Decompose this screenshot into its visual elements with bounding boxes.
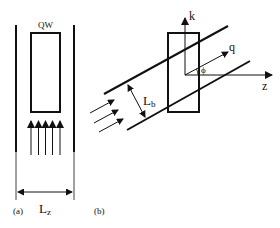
incident-arrows-a — [31, 121, 60, 155]
caption-b: (b) — [94, 206, 105, 216]
lb-label: Lb — [143, 93, 156, 109]
phi-label: ϕ — [201, 65, 206, 75]
z-axis-label: z — [262, 79, 267, 93]
arrow-icon — [94, 110, 118, 123]
q-vector — [185, 52, 228, 75]
angle-arc — [197, 69, 199, 75]
qw-label: QW — [38, 20, 53, 30]
panel-a: QW Lz (a) — [13, 20, 74, 217]
arrow-icon — [99, 119, 123, 132]
incident-arrows-b — [90, 100, 123, 132]
lz-label: Lz — [39, 201, 51, 217]
diagram-canvas: QW Lz (a) k z q ϕ Lb (b) — [0, 0, 280, 228]
arrow-icon — [90, 100, 114, 113]
quantum-well-box — [31, 33, 60, 112]
panel-b: k z q ϕ Lb (b) — [90, 9, 272, 216]
k-axis-label: k — [189, 9, 195, 23]
q-vector-label: q — [229, 40, 235, 54]
caption-a: (a) — [13, 206, 23, 216]
